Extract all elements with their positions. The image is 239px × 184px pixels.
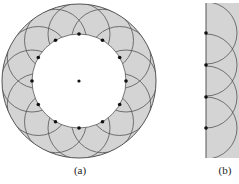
panel-a-label: (a) xyxy=(74,164,86,176)
source-point xyxy=(118,103,122,107)
diagram-canvas xyxy=(0,0,239,184)
source-point xyxy=(54,120,58,124)
panel-b-label: (b) xyxy=(219,164,232,176)
source-point xyxy=(77,32,81,36)
source-point xyxy=(101,120,105,124)
source-point xyxy=(118,56,122,60)
source-point xyxy=(36,103,40,107)
source-point xyxy=(204,126,208,130)
source-point xyxy=(77,126,81,130)
center-point xyxy=(77,79,80,82)
source-point xyxy=(30,79,34,83)
wave-region-b xyxy=(206,3,239,158)
source-point xyxy=(36,56,40,60)
source-point xyxy=(54,38,58,42)
source-point xyxy=(204,63,208,67)
source-point xyxy=(204,95,208,99)
source-point xyxy=(204,31,208,35)
source-point xyxy=(124,79,128,83)
source-point xyxy=(101,38,105,42)
